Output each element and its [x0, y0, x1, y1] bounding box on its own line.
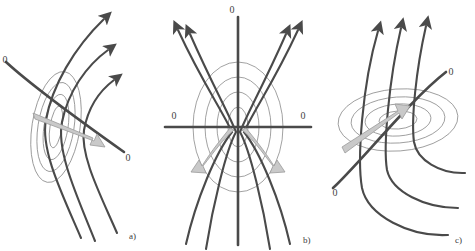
- panel-b-zero-label-left: 0: [172, 110, 177, 121]
- panel-label-a: a): [129, 231, 136, 241]
- panel-c-zero-label-top-right: 0: [449, 66, 454, 77]
- panel-label-b: b): [303, 235, 311, 245]
- physics-field-diagram: 0 0 a) 0 0 0: [0, 0, 475, 251]
- panel-c-zero-label-bottom-left: 0: [333, 187, 338, 198]
- panel-label-c: c): [455, 235, 462, 245]
- panel-b-zero-label-right: 0: [301, 110, 306, 121]
- panel-a-zero-label-left: 0: [3, 54, 8, 65]
- diagram-canvas: 0 0 a) 0 0 0: [0, 0, 475, 251]
- panel-a-zero-label-right: 0: [126, 152, 131, 163]
- panel-b-zero-label-top: 0: [230, 4, 235, 15]
